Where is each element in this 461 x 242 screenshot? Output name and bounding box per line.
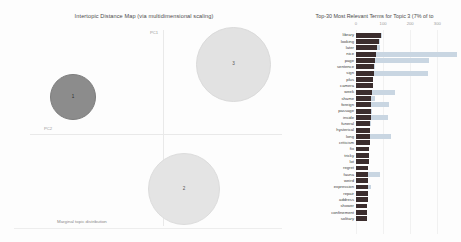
term-label[interactable]: regret [294,165,354,170]
term-label[interactable]: sentence [294,64,354,69]
topic-frequency-bar [356,191,368,196]
term-label[interactable]: funeral [294,121,354,126]
horizontal-axis-line [30,134,282,135]
marginal-topic-distribution-label: Marginal topic distribution [57,219,107,224]
term-label[interactable]: shower [294,203,354,208]
topic-bubble-2[interactable]: 2 [148,153,220,225]
topic-frequency-bar [356,185,368,190]
topic-frequency-bar [356,121,370,126]
topic-frequency-bar [356,210,367,215]
legend-divider [14,228,282,229]
topic-frequency-bar [356,90,372,95]
term-label[interactable]: fauna [294,172,354,177]
topic-bubble-3[interactable]: 3 [196,27,271,102]
term-label[interactable]: looking [294,39,354,44]
topic-frequency-bar [356,109,371,114]
term-label[interactable]: page [294,58,354,63]
term-label[interactable]: repair [294,191,354,196]
term-label[interactable]: fix [294,146,354,151]
topic-frequency-bar [356,216,367,221]
term-label[interactable]: passage [294,108,354,113]
term-label[interactable]: hysterical [294,127,354,132]
term-label[interactable]: foreign [294,102,354,107]
topic-frequency-bar [356,33,381,38]
term-label[interactable]: library [294,32,354,37]
x-axis-tick-label: 300 [434,21,441,26]
term-label[interactable]: tricky [294,153,354,158]
x-axis-tick-label: 100 [380,21,387,26]
topic-bubble-label: 2 [183,187,186,192]
x-axis-tick-label: 200 [407,21,414,26]
barchart-x-axis: 0100200300 [288,21,461,31]
topic-frequency-bar [356,45,377,50]
term-label[interactable]: camera [294,83,354,88]
topic-bubble-1[interactable]: 1 [50,74,96,120]
topic-frequency-bar [356,39,379,44]
topic-bubble-label: 1 [72,95,75,100]
topic-frequency-bar [356,64,374,69]
topic-frequency-bar [356,115,371,120]
topic-frequency-bar [356,197,368,202]
term-label[interactable]: week [294,89,354,94]
pc1-axis-label: PC1 [150,30,158,35]
topic-bubble-label: 3 [232,62,235,67]
topic-frequency-bar [356,58,375,63]
intertopic-map-title: Intertopic Distance Map (via multidimens… [0,13,288,19]
topic-frequency-bar [356,166,368,171]
lda-visualization: Intertopic Distance Map (via multidimens… [0,0,461,242]
topic-frequency-bar [356,178,368,183]
intertopic-distance-map-panel: Intertopic Distance Map (via multidimens… [0,0,288,242]
term-label[interactable]: solitary [294,216,354,221]
term-label[interactable]: sign [294,70,354,75]
topic-frequency-bar [356,77,373,82]
barchart-bars: librarylookinglaternicepagesentencesignp… [288,32,461,232]
relevant-terms-panel: Top-30 Most Relevant Terms for Topic 3 (… [288,0,461,242]
term-label[interactable]: lot [294,159,354,164]
pc2-axis-label: PC2 [44,126,52,131]
term-label[interactable]: nice [294,51,354,56]
topic-frequency-bar [356,172,368,177]
topic-frequency-bar [356,83,373,88]
barchart-title: Top-30 Most Relevant Terms for Topic 3 (… [288,13,461,19]
topic-frequency-bar [356,153,369,158]
topic-frequency-bar [356,128,370,133]
term-label[interactable]: weird [294,178,354,183]
topic-frequency-bar [356,140,370,145]
x-axis-tick-label: 0 [355,21,357,26]
term-bar-row[interactable]: solitary [288,216,461,222]
term-label[interactable]: long [294,134,354,139]
topic-frequency-bar [356,159,369,164]
term-label[interactable]: inside [294,115,354,120]
topic-frequency-bar [356,147,369,152]
term-label[interactable]: expression [294,184,354,189]
term-label[interactable]: later [294,45,354,50]
term-label[interactable]: address [294,197,354,202]
term-label[interactable]: shame [294,96,354,101]
term-label[interactable]: criticism [294,140,354,145]
term-label[interactable]: confinement [294,210,354,215]
topic-frequency-bar [356,96,371,101]
topic-frequency-bar [356,134,370,139]
term-label[interactable]: plus [294,77,354,82]
topic-frequency-bar [356,71,374,76]
topic-frequency-bar [356,52,376,57]
topic-frequency-bar [356,204,367,209]
topic-frequency-bar [356,102,371,107]
